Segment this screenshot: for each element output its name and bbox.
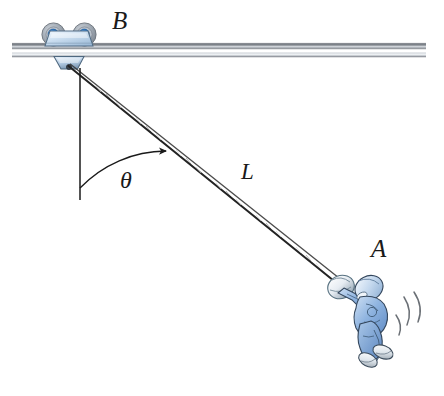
- label-A: A: [371, 236, 386, 261]
- label-L: L: [241, 160, 254, 183]
- label-theta: θ: [120, 168, 132, 192]
- physics-diagram: [0, 0, 444, 396]
- trolley-B: [42, 23, 96, 70]
- label-B: B: [112, 8, 127, 33]
- rope-L: [69, 64, 345, 285]
- motion-swoosh-lines: [396, 292, 420, 335]
- trolley-body: [45, 31, 93, 46]
